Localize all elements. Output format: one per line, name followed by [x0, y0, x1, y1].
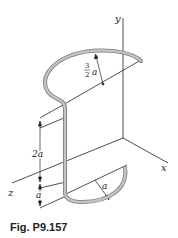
- x-axis-label: x: [161, 162, 167, 173]
- dimension-lines: [39, 54, 110, 206]
- figure-caption: Fig. P9.157: [10, 221, 67, 233]
- dim-extension-top: [40, 118, 64, 128]
- x-axis: [123, 138, 168, 163]
- z-axis: [12, 138, 123, 183]
- bottom-radius-label: a: [102, 181, 107, 191]
- top-radius-numerator: 3: [85, 62, 89, 70]
- wire-figure-diagram: y x z 3 2 a 2a a a: [0, 0, 178, 238]
- dim-extension-bottom: [40, 196, 66, 208]
- lower-offset-label: a: [36, 190, 41, 200]
- top-radius-denominator: 2: [85, 71, 89, 79]
- top-diameter-line: [40, 60, 141, 118]
- top-radius-variable: a: [92, 67, 97, 77]
- dim-extension-mid: [40, 182, 66, 188]
- z-axis-label: z: [7, 187, 14, 198]
- vertical-dimension-label: 2a: [31, 149, 43, 159]
- y-axis-label: y: [114, 13, 121, 24]
- coordinate-axes: [12, 18, 168, 208]
